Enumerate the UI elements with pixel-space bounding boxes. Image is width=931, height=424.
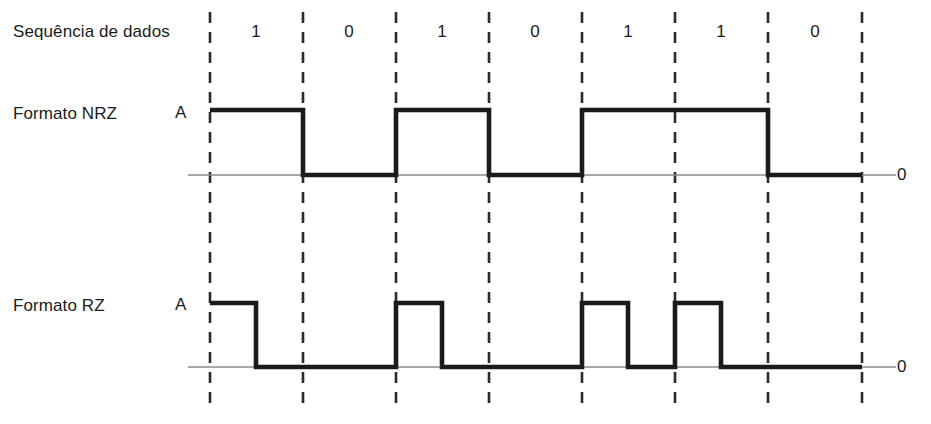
amplitude-label-nrz: A [175, 103, 186, 123]
row-label-rz-format: Formato RZ [13, 296, 105, 316]
signal-format-figure: Sequência de dados Formato NRZ Formato R… [0, 0, 931, 424]
bit-label: 0 [810, 22, 819, 42]
amplitude-label-rz: A [175, 295, 186, 315]
bit-label: 0 [344, 22, 353, 42]
bit-label: 1 [716, 22, 725, 42]
bit-label: 1 [623, 22, 632, 42]
row-label-data-sequence: Sequência de dados [13, 22, 170, 42]
bit-label: 1 [437, 22, 446, 42]
rz-waveform [210, 303, 862, 367]
bit-label: 0 [530, 22, 539, 42]
row-label-nrz-format: Formato NRZ [13, 104, 117, 124]
waveform-canvas [0, 0, 931, 424]
bit-boundary-gridlines [210, 12, 862, 412]
zero-label-rz: 0 [897, 357, 906, 377]
bit-label: 1 [251, 22, 260, 42]
zero-label-nrz: 0 [897, 165, 906, 185]
nrz-waveform [210, 110, 862, 175]
